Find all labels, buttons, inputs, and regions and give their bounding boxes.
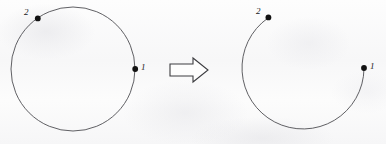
right-point-2-label: 2 xyxy=(256,7,261,16)
closed-circle-path xyxy=(11,7,135,131)
figure-graphics xyxy=(0,0,386,144)
right-point-1-label: 1 xyxy=(370,62,375,71)
right-point-2-dot xyxy=(266,15,272,21)
transformation-arrow xyxy=(170,58,208,82)
open-arc-path xyxy=(242,18,364,129)
figure-canvas: 1 2 1 2 xyxy=(0,0,386,144)
right-point-1-dot xyxy=(361,65,367,71)
left-panel-closed-circle xyxy=(11,7,138,131)
left-point-2-label: 2 xyxy=(24,8,29,17)
right-panel-open-arc xyxy=(242,15,367,129)
arrow-right-icon xyxy=(170,58,208,82)
left-point-1-label: 1 xyxy=(141,63,146,72)
left-point-2-dot xyxy=(35,16,41,22)
left-point-1-dot xyxy=(132,66,138,72)
